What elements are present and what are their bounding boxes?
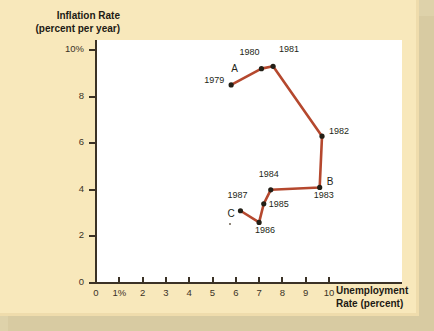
data-point-year-label: 1983: [314, 190, 334, 200]
data-point-letter-label: C: [227, 208, 234, 219]
data-point-marker: [317, 185, 322, 190]
data-point-marker: [238, 208, 243, 213]
data-point-marker: [229, 82, 234, 87]
data-point-year-label: 1985: [269, 199, 289, 209]
data-series-layer: [0, 0, 434, 331]
data-point-letter-label: A: [231, 63, 238, 74]
data-point-marker: [257, 220, 262, 225]
data-point-year-label: 1984: [259, 169, 279, 179]
figure-page: Inflation Rate (percent per year) Unempl…: [0, 0, 434, 331]
data-point-year-label: 1979: [204, 75, 224, 85]
data-point-marker: [319, 134, 324, 139]
data-point-year-label: 1980: [239, 47, 259, 57]
data-point-year-label: 1981: [279, 44, 299, 54]
data-point-marker: [259, 66, 264, 71]
data-point-year-label: 1986: [255, 225, 275, 235]
data-point-year-label: 1982: [329, 126, 349, 136]
data-point-letter-label: B: [327, 176, 334, 187]
data-point-marker: [268, 187, 273, 192]
data-point-year-label: 1987: [227, 190, 247, 200]
data-point-marker: [270, 64, 275, 69]
data-point-marker: [261, 201, 266, 206]
